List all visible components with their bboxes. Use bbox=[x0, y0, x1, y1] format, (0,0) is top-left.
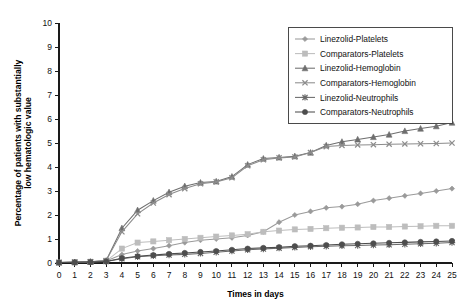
x-tick-label: 24 bbox=[432, 270, 442, 280]
data-point-square bbox=[166, 238, 171, 243]
data-point-circle bbox=[434, 239, 439, 244]
y-tick-label: 5 bbox=[47, 138, 52, 148]
data-point-square bbox=[182, 236, 187, 241]
x-tick-label: 15 bbox=[290, 270, 300, 280]
data-point-circle bbox=[151, 252, 156, 257]
data-point-diamond bbox=[151, 246, 156, 251]
legend-label: Linezolid-Neutrophils bbox=[320, 93, 398, 103]
data-point-diamond bbox=[434, 188, 439, 193]
x-tick-label: 18 bbox=[337, 270, 347, 280]
x-tick-label: 22 bbox=[400, 270, 410, 280]
data-point-diamond bbox=[276, 220, 281, 225]
data-point-circle bbox=[166, 251, 171, 256]
x-tick-label: 23 bbox=[416, 270, 426, 280]
data-point-circle bbox=[182, 250, 187, 255]
data-series-layer bbox=[56, 120, 455, 266]
data-point-circle bbox=[449, 238, 454, 243]
data-point-diamond bbox=[371, 198, 376, 203]
data-point-diamond bbox=[324, 205, 329, 210]
data-point-circle bbox=[198, 249, 203, 254]
data-point-diamond bbox=[418, 191, 423, 196]
y-tick-label: 10 bbox=[43, 18, 53, 28]
x-tick-label: 17 bbox=[322, 270, 332, 280]
data-point-circle bbox=[214, 248, 219, 253]
x-tick-label: 8 bbox=[182, 270, 187, 280]
x-tick-label: 0 bbox=[57, 270, 62, 280]
data-point-diamond bbox=[166, 243, 171, 248]
chart-legend: Linezolid-PlateletsComparators-Platelets… bbox=[288, 27, 452, 124]
data-point-diamond bbox=[308, 209, 313, 214]
data-point-diamond bbox=[355, 202, 360, 207]
data-point-square bbox=[449, 223, 454, 228]
y-tick-label: 9 bbox=[47, 42, 52, 52]
data-point-square bbox=[229, 233, 234, 238]
x-tick-label: 14 bbox=[274, 270, 284, 280]
legend-label: Comparators-Platelets bbox=[320, 49, 403, 59]
x-tick-label: 16 bbox=[306, 270, 316, 280]
x-tick-label: 10 bbox=[211, 270, 221, 280]
x-tick-label: 13 bbox=[259, 270, 269, 280]
data-point-square bbox=[261, 229, 266, 234]
data-point-square bbox=[402, 224, 407, 229]
data-point-square bbox=[308, 226, 313, 231]
x-tick-label: 3 bbox=[104, 270, 109, 280]
y-tick-label: 2 bbox=[47, 210, 52, 220]
x-tick-label: 9 bbox=[198, 270, 203, 280]
data-point-circle bbox=[292, 244, 297, 249]
y-tick-label: 0 bbox=[47, 258, 52, 268]
data-point-square bbox=[434, 223, 439, 228]
x-tick-label: 4 bbox=[120, 270, 125, 280]
x-tick-label: 25 bbox=[447, 270, 457, 280]
data-point-diamond bbox=[292, 212, 297, 217]
y-axis-ticks: 012345678910 bbox=[43, 18, 59, 268]
x-tick-label: 7 bbox=[167, 270, 172, 280]
data-point-circle bbox=[135, 254, 140, 259]
data-point-square bbox=[387, 224, 392, 229]
data-point-circle bbox=[339, 242, 344, 247]
data-point-circle bbox=[245, 246, 250, 251]
data-point-circle bbox=[261, 245, 266, 250]
data-point-diamond bbox=[339, 204, 344, 209]
data-point-square bbox=[292, 227, 297, 232]
data-point-circle bbox=[104, 259, 109, 264]
x-axis-ticks: 0123456789101112131415161718192021222324… bbox=[57, 263, 457, 280]
data-point-circle bbox=[72, 260, 77, 265]
data-point-diamond bbox=[387, 196, 392, 201]
data-point-circle bbox=[276, 245, 281, 250]
data-point-circle bbox=[119, 256, 124, 261]
data-point-circle bbox=[308, 243, 313, 248]
data-point-asterisk bbox=[302, 94, 308, 100]
data-point-circle bbox=[387, 240, 392, 245]
data-point-circle bbox=[402, 240, 407, 245]
data-point-square bbox=[135, 240, 140, 245]
series-comparators-hemoglobin bbox=[56, 140, 454, 265]
data-point-square bbox=[371, 224, 376, 229]
data-point-square bbox=[302, 51, 307, 56]
series-path bbox=[59, 123, 452, 263]
data-point-square bbox=[418, 224, 423, 229]
data-point-circle bbox=[56, 260, 61, 265]
data-point-square bbox=[339, 225, 344, 230]
data-point-square bbox=[245, 232, 250, 237]
data-point-circle bbox=[355, 241, 360, 246]
data-point-circle bbox=[324, 242, 329, 247]
legend-label: Comparators-Neutrophils bbox=[320, 107, 414, 117]
data-point-circle bbox=[371, 241, 376, 246]
x-tick-label: 12 bbox=[243, 270, 253, 280]
data-point-circle bbox=[229, 247, 234, 252]
x-axis-title: Times in days bbox=[227, 289, 284, 299]
data-point-square bbox=[151, 239, 156, 244]
data-point-square bbox=[198, 235, 203, 240]
line-chart: 012345678910 012345678910111213141516171… bbox=[0, 0, 463, 305]
y-tick-label: 6 bbox=[47, 114, 52, 124]
x-tick-label: 2 bbox=[88, 270, 93, 280]
y-axis-title: Percentage of patients with substantiall… bbox=[13, 59, 33, 226]
data-point-square bbox=[355, 225, 360, 230]
x-tick-label: 1 bbox=[72, 270, 77, 280]
y-tick-label: 1 bbox=[47, 234, 52, 244]
data-point-square bbox=[276, 228, 281, 233]
y-tick-label: 3 bbox=[47, 186, 52, 196]
data-point-diamond bbox=[402, 193, 407, 198]
legend-label: Linezolid-Platelets bbox=[320, 34, 388, 44]
data-point-circle bbox=[302, 109, 307, 114]
